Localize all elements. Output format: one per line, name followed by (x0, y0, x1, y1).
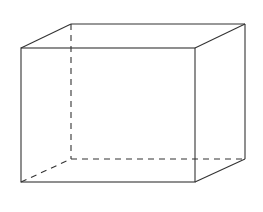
cuboid-diagram (0, 0, 263, 212)
front-face (21, 48, 195, 182)
top-left-depth-edge (21, 24, 71, 48)
hidden-bottom-left-depth-edge (21, 159, 71, 182)
top-right-depth-edge (195, 24, 245, 48)
bottom-right-depth-edge (195, 159, 245, 182)
